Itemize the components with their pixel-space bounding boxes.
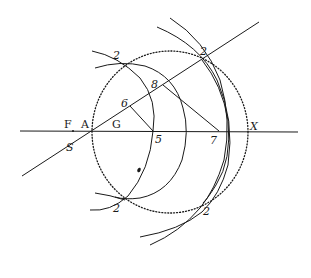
diagonal-line [22,22,259,176]
point-f-dot [72,130,74,132]
segment-8-7 [163,85,219,131]
label-2-bottom-left: 2 [112,202,120,215]
arc-left-inner [90,51,154,210]
label-2-bottom-right: 2 [202,205,210,218]
label-a: A [80,118,90,131]
arc-bottom-left-cross [95,193,125,200]
label-2-top-right: 2 [199,45,207,58]
label-f: F [64,118,72,131]
ink-dot-mark [137,167,142,173]
label-8: 8 [151,78,158,91]
label-7: 7 [210,134,217,147]
label-6: 6 [121,97,128,110]
geometric-diagram: F A G S 5 6 7 8 X 2 2 2 2 [0,0,311,278]
label-5: 5 [155,133,162,146]
label-2-top-left: 2 [112,49,120,62]
segment-6-5 [130,106,153,131]
label-g: G [112,118,121,131]
label-x: X [249,120,259,133]
label-s: S [66,141,74,154]
